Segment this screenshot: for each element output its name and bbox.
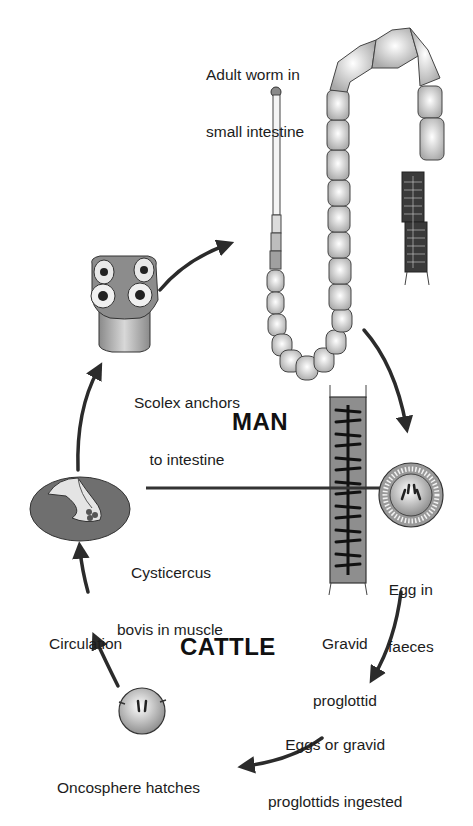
tapeworm-life-cycle-diagram: MAN CATTLE Adult worm in small intestine… [0, 0, 473, 826]
egg-illustration [379, 463, 443, 527]
label-oncosphere: Oncosphere hatches and penetrates the wa… [57, 740, 200, 826]
label-adult-worm: Adult worm in small intestine [206, 27, 304, 179]
mature-proglottids [402, 172, 429, 285]
label-circulation: Circulation [49, 596, 122, 691]
arrow-adult-to-egg [364, 330, 406, 425]
label-egg: Egg in faeces [388, 542, 434, 694]
arrow-circulation-to-cysticercus [80, 550, 88, 592]
host-label-man: MAN [232, 408, 288, 436]
oncosphere-illustration [119, 688, 166, 734]
gravid-proglottid-illustration [329, 385, 367, 595]
arrow-cysticercus-to-scolex [78, 370, 98, 470]
scolex-illustration [91, 256, 158, 352]
label-scolex: Scolex anchors to intestine [134, 355, 240, 507]
cysticercus-illustration [30, 477, 130, 541]
label-eggs-ingested: Eggs or gravid proglottids ingested [268, 697, 402, 826]
arrow-scolex-to-adult [160, 245, 226, 290]
label-cysticercus: Cysticercus bovis in muscle [117, 525, 223, 677]
